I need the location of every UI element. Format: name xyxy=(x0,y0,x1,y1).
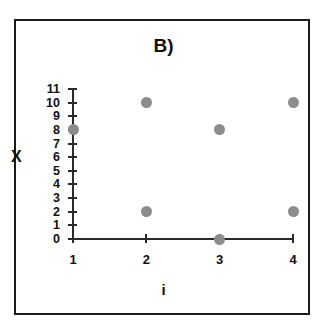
chart-figure: B) 012345678910111234 X i xyxy=(0,0,327,327)
chart-frame xyxy=(14,19,310,315)
x-axis-label: i xyxy=(0,281,327,298)
chart-title: B) xyxy=(0,35,327,57)
y-axis-label: X xyxy=(11,148,22,166)
